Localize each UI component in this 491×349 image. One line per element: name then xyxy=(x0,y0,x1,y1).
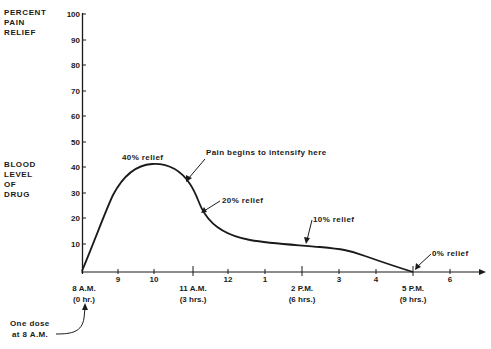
x-major-5pm-hrs: (9 hrs.) xyxy=(400,295,427,304)
x-major-2pm: 2 P.M. xyxy=(291,284,313,293)
x-tick-9: 9 xyxy=(116,275,121,284)
x-major-8am-hrs: (0 hr.) xyxy=(73,295,95,304)
x-tick-6: 6 xyxy=(448,275,453,284)
y-tick-90: 90 xyxy=(71,36,80,45)
x-major-11am-hrs: (3 hrs.) xyxy=(180,295,207,304)
y-tick-20: 20 xyxy=(71,214,80,223)
dose-note-line2: at 8 A.M. xyxy=(12,330,48,339)
dose-arrow-line xyxy=(56,308,85,334)
y-label-mid-1: BLOOD xyxy=(4,160,36,169)
arrow-10-icon xyxy=(304,237,310,244)
x-major-8am: 8 A.M. xyxy=(72,284,95,293)
y-tick-30: 30 xyxy=(71,189,80,198)
y-label-mid-3: OF xyxy=(4,180,16,189)
x-tick-1: 1 xyxy=(263,275,268,284)
x-tick-10: 10 xyxy=(150,275,159,284)
blood-level-curve xyxy=(82,164,413,272)
y-tick-40: 40 xyxy=(71,163,80,172)
y-label-mid-4: DRUG xyxy=(4,190,30,199)
y-label-top-1: PERCENT xyxy=(4,8,46,17)
y-tick-10: 10 xyxy=(71,240,80,249)
pain-arrow-line xyxy=(188,159,205,179)
y-tick-100: 100 xyxy=(67,10,81,19)
x-axis-arrow-icon xyxy=(479,269,486,275)
y-tick-70: 70 xyxy=(71,87,80,96)
y-label-top-2: PAIN xyxy=(4,18,25,27)
annotation-pain-intensify: Pain begins to intensify here xyxy=(206,148,327,157)
x-tick-4: 4 xyxy=(374,275,379,284)
annotation-20-relief: 20% relief xyxy=(222,196,263,205)
y-tick-60: 60 xyxy=(71,112,80,121)
annotation-0-relief: 0% relief xyxy=(432,249,469,258)
x-tick-3: 3 xyxy=(337,275,342,284)
x-major-11am: 11 A.M. xyxy=(179,284,206,293)
arrow-10-line xyxy=(307,220,312,240)
y-label-mid-2: LEVEL xyxy=(4,170,33,179)
x-major-2pm-hrs: (6 hrs.) xyxy=(289,295,316,304)
arrow-0-line xyxy=(417,254,431,267)
dose-note-line1: One dose xyxy=(10,319,50,328)
y-tick-50: 50 xyxy=(71,138,80,147)
annotation-10-relief: 10% relief xyxy=(313,215,354,224)
pain-relief-chart: PERCENT PAIN RELIEF BLOOD LEVEL OF DRUG … xyxy=(0,0,491,349)
y-label-top-3: RELIEF xyxy=(4,28,36,37)
x-major-5pm: 5 P.M. xyxy=(402,284,424,293)
y-tick-80: 80 xyxy=(71,61,80,70)
arrow-20-line xyxy=(204,201,220,211)
x-tick-12: 12 xyxy=(224,275,233,284)
dose-arrow-icon xyxy=(82,303,88,310)
annotation-40-relief: 40% relief xyxy=(122,153,163,162)
